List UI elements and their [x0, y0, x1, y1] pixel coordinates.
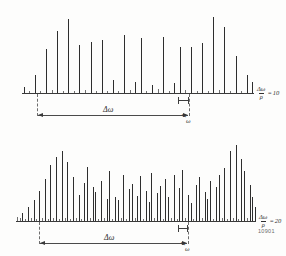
spectral-line	[85, 90, 86, 93]
spectral-line	[233, 218, 234, 221]
spectral-line	[118, 200, 119, 221]
spectral-line	[149, 202, 150, 221]
spectral-line	[24, 87, 25, 93]
spectral-line	[185, 90, 186, 93]
spectral-line	[115, 197, 116, 221]
spectral-line	[109, 171, 110, 221]
spectral-line	[48, 219, 49, 221]
spectral-line	[76, 218, 77, 221]
spectral-line	[210, 181, 211, 221]
rho-bracket-top	[178, 97, 189, 105]
spectral-line	[87, 167, 88, 221]
spectral-line	[208, 91, 209, 93]
bar-series-top	[22, 13, 254, 93]
spectral-line	[250, 185, 251, 221]
spectral-line	[104, 218, 105, 221]
spectral-line	[143, 219, 144, 221]
x-axis-bottom	[16, 221, 256, 222]
spectral-line	[62, 151, 63, 221]
spectral-line	[98, 219, 99, 221]
spectral-line	[42, 218, 43, 221]
spectral-line	[70, 219, 71, 221]
spectral-line	[74, 91, 75, 93]
spectral-line	[169, 91, 170, 93]
spectral-line	[197, 91, 198, 93]
spectrum-panel-index-20: Δω ρ ω Δω ρ = 20 10901	[0, 128, 286, 256]
spectral-line	[130, 90, 131, 93]
spectral-line	[191, 203, 192, 221]
spectral-line	[163, 219, 164, 221]
plot-area-top: Δω ρ ω Δω ρ = 10	[0, 0, 286, 128]
spectral-line	[17, 217, 18, 221]
spectral-line	[160, 186, 161, 221]
spectral-line	[22, 213, 23, 221]
spectral-line	[244, 171, 245, 221]
spectral-line	[177, 219, 178, 221]
spectral-line	[180, 47, 181, 93]
spectral-line	[96, 91, 97, 93]
spectral-line	[219, 90, 220, 93]
spectral-line	[95, 192, 96, 221]
spectral-line	[224, 168, 225, 221]
spectral-line	[79, 45, 80, 93]
spectral-line	[222, 218, 223, 221]
spectral-line	[101, 181, 102, 221]
spectral-line	[141, 38, 142, 93]
ratio-label-top: Δω ρ = 10	[256, 86, 279, 100]
spectral-line	[56, 157, 57, 221]
plot-area-bottom: Δω ρ ω Δω ρ = 20 10901	[0, 128, 286, 256]
spectral-line	[39, 191, 40, 221]
spectral-line	[84, 183, 85, 221]
omega-axis-label-top: ω	[186, 118, 191, 125]
omega-axis-label-bottom: ω	[185, 246, 190, 253]
ratio-denominator-bottom: ρ	[261, 221, 266, 229]
spectral-line	[102, 40, 103, 93]
spectral-line	[25, 219, 26, 221]
spectral-line	[107, 91, 108, 93]
spectral-line	[241, 91, 242, 93]
span-guide-right-bottom	[188, 222, 189, 244]
spectral-line	[50, 165, 51, 221]
spectral-line	[252, 82, 253, 93]
spectral-line	[154, 218, 155, 221]
spectral-line	[35, 75, 36, 93]
span-arrow-left-bottom	[40, 241, 45, 245]
spectral-line	[124, 35, 125, 93]
spectral-line	[213, 17, 214, 93]
spectral-line	[59, 219, 60, 221]
spectral-line	[65, 218, 66, 221]
spectral-line	[46, 49, 47, 93]
spectral-line	[236, 145, 237, 221]
spectral-line	[79, 195, 80, 221]
spectral-line	[132, 184, 133, 221]
spectral-line	[146, 91, 147, 93]
spectral-line	[68, 19, 69, 93]
spectral-line	[113, 80, 114, 93]
spectral-line	[73, 177, 74, 221]
spectral-line	[165, 179, 166, 221]
spectral-line	[207, 199, 208, 221]
span-label-bottom: Δω	[104, 234, 114, 242]
spectral-line	[255, 207, 256, 221]
ratio-equals-top: =	[267, 90, 271, 97]
bar-series-bottom	[16, 141, 256, 221]
ratio-fraction-top: Δω ρ	[256, 86, 266, 100]
spectral-line	[45, 179, 46, 221]
ratio-value-top: 10	[273, 90, 280, 97]
spectral-line	[185, 218, 186, 221]
span-arrow-line-bottom	[40, 243, 187, 244]
ratio-fraction-bottom: Δω ρ	[258, 214, 268, 228]
spectral-line	[199, 177, 200, 221]
spectral-line	[135, 218, 136, 221]
spectral-line	[129, 189, 130, 221]
spectral-line	[158, 89, 159, 93]
spectral-line	[216, 187, 217, 221]
spectral-line	[34, 200, 35, 221]
spectral-line	[230, 91, 231, 93]
spectral-line	[146, 191, 147, 221]
spectral-line	[29, 91, 30, 93]
spectral-line	[241, 159, 242, 221]
ratio-value-bottom: 20	[275, 218, 282, 225]
spectral-line	[247, 218, 248, 221]
spectral-line	[107, 199, 108, 221]
